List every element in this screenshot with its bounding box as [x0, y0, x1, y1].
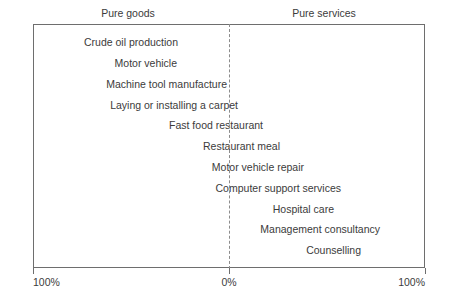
item-label-restaurant-meal: Restaurant meal: [203, 140, 280, 152]
tick-left-100-mark: [33, 268, 34, 274]
tick-left-100-label: 100%: [33, 276, 60, 288]
item-label-motor-vehicle: Motor vehicle: [115, 57, 177, 69]
tick-center-0-label: 0%: [221, 276, 236, 288]
item-label-computer-support-services: Computer support services: [216, 182, 341, 194]
pole-label-pure-goods: Pure goods: [101, 7, 155, 19]
tick-right-100-mark: [425, 268, 426, 274]
item-label-machine-tool-manufacture: Machine tool manufacture: [106, 78, 227, 90]
tick-center-0-mark: [229, 268, 230, 274]
pole-label-pure-services: Pure services: [292, 7, 356, 19]
item-label-management-consultancy: Management consultancy: [260, 223, 380, 235]
item-label-crude-oil-production: Crude oil production: [84, 36, 178, 48]
tick-right-100-label: 100%: [398, 276, 425, 288]
item-label-counselling: Counselling: [306, 244, 361, 256]
item-label-hospital-care: Hospital care: [273, 203, 334, 215]
zero-percent-dashed-line: [229, 24, 230, 269]
goods-services-continuum-figure: Pure goodsPure services Crude oil produc…: [0, 0, 461, 300]
item-label-motor-vehicle-repair: Motor vehicle repair: [212, 161, 304, 173]
item-label-laying-or-installing-carpet: Laying or installing a carpet: [110, 99, 238, 111]
item-label-fast-food-restaurant: Fast food restaurant: [169, 119, 263, 131]
